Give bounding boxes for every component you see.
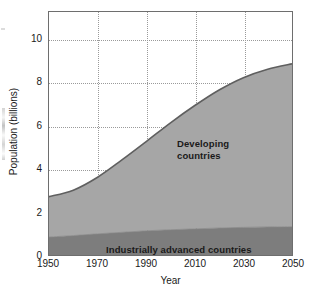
x-tick-label-2030: 2030 xyxy=(221,258,267,270)
industrially-advanced-countries-label: Industrially advanced countries xyxy=(106,244,252,256)
developing-countries-area xyxy=(49,64,292,237)
population-growth-chart-figure: Population (billions) 10 8 6 4 2 0 xyxy=(0,0,314,299)
plot-inner: Developing countries Industrially advanc… xyxy=(49,12,292,255)
stacked-area-plot xyxy=(49,12,292,255)
y-tick-label-4: 4 xyxy=(2,164,42,174)
y-tick-label-2: 2 xyxy=(2,208,42,218)
x-tick-label-2050: 2050 xyxy=(270,258,314,270)
x-axis-title: Year xyxy=(48,275,293,286)
x-tick-label-1990: 1990 xyxy=(123,258,169,270)
y-tick-label-8: 8 xyxy=(2,77,42,87)
x-tick-label-1950: 1950 xyxy=(25,258,71,270)
scan-edge-artifact xyxy=(2,108,5,160)
y-tick-label-10: 10 xyxy=(2,34,42,44)
scan-edge-artifact-secondary xyxy=(1,28,5,30)
x-tick-label-1970: 1970 xyxy=(74,258,120,270)
developing-countries-label-line2: countries xyxy=(177,150,229,162)
developing-countries-label: Developing countries xyxy=(177,138,229,161)
plot-area: Developing countries Industrially advanc… xyxy=(48,11,293,256)
x-tick-label-2010: 2010 xyxy=(172,258,218,270)
y-tick-label-6: 6 xyxy=(2,121,42,131)
developing-countries-label-line1: Developing xyxy=(177,138,229,150)
